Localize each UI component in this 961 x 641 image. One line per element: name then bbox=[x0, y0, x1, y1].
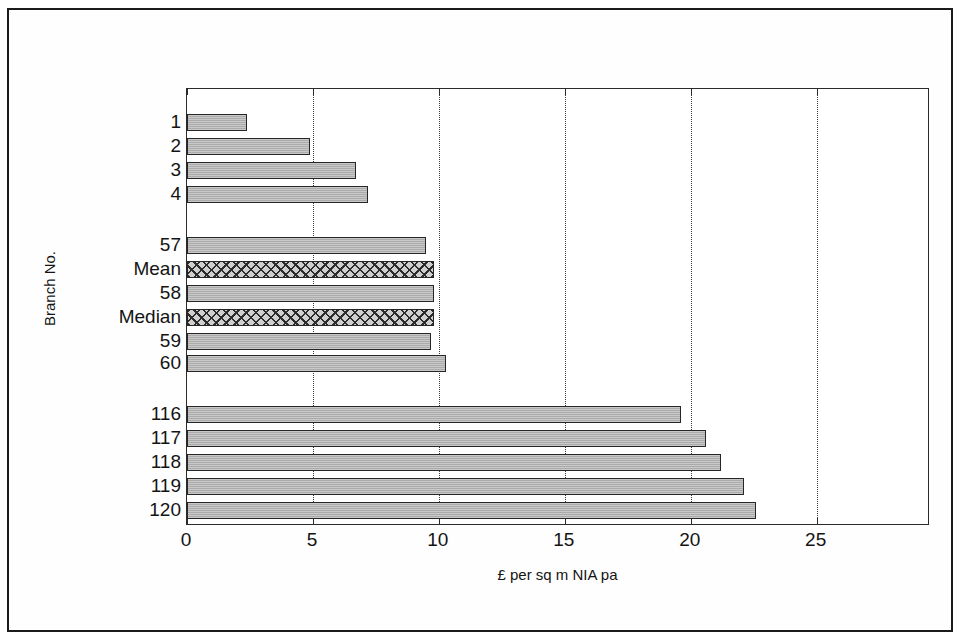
bar-fill bbox=[187, 138, 310, 155]
x-axis-title: £ per sq m NIA pa bbox=[186, 566, 929, 583]
y-axis-tick-labels: 123457Mean58Median5960116117118119120 bbox=[69, 88, 181, 525]
bar-fill bbox=[187, 478, 744, 495]
bar-fill bbox=[187, 309, 434, 326]
bar-fill bbox=[187, 406, 681, 423]
bar-1 bbox=[187, 114, 247, 131]
bar-119 bbox=[187, 478, 744, 495]
bar-fill bbox=[187, 502, 756, 519]
bar-116 bbox=[187, 406, 681, 423]
bar-mean bbox=[187, 261, 434, 278]
y-tick-label-60: 60 bbox=[160, 353, 181, 372]
x-tick-label-15: 15 bbox=[553, 529, 574, 551]
y-tick-label-117: 117 bbox=[151, 428, 181, 447]
y-tick-label-120: 120 bbox=[149, 500, 181, 519]
bar-120 bbox=[187, 502, 756, 519]
bar-fill bbox=[187, 285, 434, 302]
x-axis-tick-labels: 0510152025 bbox=[186, 529, 929, 557]
bar-2 bbox=[187, 138, 310, 155]
bar-60 bbox=[187, 355, 446, 372]
y-tick-label-119: 119 bbox=[151, 476, 181, 495]
tick-25 bbox=[817, 518, 818, 524]
bar-118 bbox=[187, 454, 721, 471]
bar-fill bbox=[187, 454, 721, 471]
x-tick-label-5: 5 bbox=[307, 529, 318, 551]
bar-fill bbox=[187, 162, 356, 179]
y-tick-label-4: 4 bbox=[170, 184, 181, 203]
y-tick-label-58: 58 bbox=[160, 283, 181, 302]
bar-fill bbox=[187, 355, 446, 372]
tick-20 bbox=[691, 89, 692, 95]
figure-border: Branch No. 123457Mean58Median59601161171… bbox=[7, 8, 953, 632]
bar-fill bbox=[187, 114, 247, 131]
y-tick-label-3: 3 bbox=[170, 160, 181, 179]
y-tick-label-1: 1 bbox=[170, 112, 181, 131]
y-axis-title: Branch No. bbox=[41, 229, 58, 349]
bar-fill bbox=[187, 261, 434, 278]
bar-fill bbox=[187, 237, 426, 254]
tick-0 bbox=[187, 89, 188, 95]
bar-3 bbox=[187, 162, 356, 179]
bar-fill bbox=[187, 430, 706, 447]
y-tick-label-median: Median bbox=[119, 307, 181, 326]
x-tick-label-10: 10 bbox=[427, 529, 448, 551]
y-tick-label-118: 118 bbox=[151, 452, 181, 471]
bar-fill bbox=[187, 333, 431, 350]
y-tick-label-mean: Mean bbox=[133, 259, 181, 278]
x-tick-label-20: 20 bbox=[679, 529, 700, 551]
bar-fill bbox=[187, 186, 368, 203]
y-tick-label-116: 116 bbox=[151, 404, 181, 423]
bar-117 bbox=[187, 430, 706, 447]
plot-area bbox=[186, 88, 929, 525]
bar-4 bbox=[187, 186, 368, 203]
bar-median bbox=[187, 309, 434, 326]
gridline-25 bbox=[817, 89, 818, 524]
bar-57 bbox=[187, 237, 426, 254]
tick-5 bbox=[313, 89, 314, 95]
y-tick-label-57: 57 bbox=[160, 235, 181, 254]
bar-58 bbox=[187, 285, 434, 302]
y-tick-label-59: 59 bbox=[160, 331, 181, 350]
y-tick-label-2: 2 bbox=[170, 136, 181, 155]
x-tick-label-25: 25 bbox=[805, 529, 826, 551]
tick-10 bbox=[439, 89, 440, 95]
tick-15 bbox=[565, 89, 566, 95]
chart-page: Branch No. 123457Mean58Median59601161171… bbox=[0, 0, 961, 641]
tick-25 bbox=[817, 89, 818, 95]
bar-59 bbox=[187, 333, 431, 350]
x-tick-label-0: 0 bbox=[181, 529, 192, 551]
